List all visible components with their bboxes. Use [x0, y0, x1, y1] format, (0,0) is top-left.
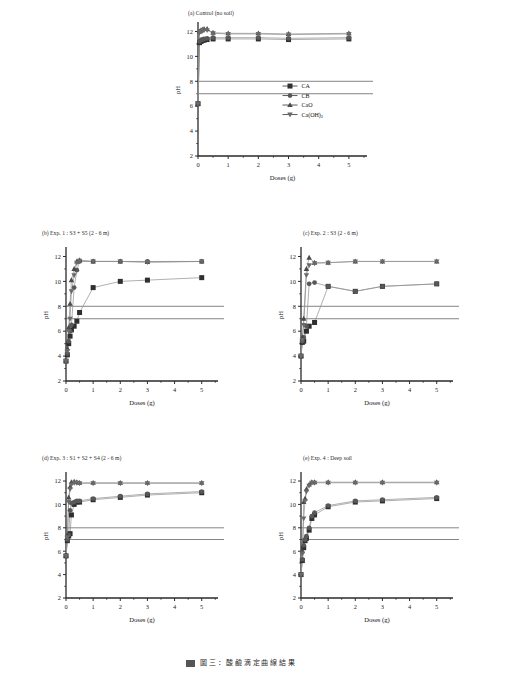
x-tick-label: 5: [200, 386, 203, 393]
x-tick-label: 0: [299, 386, 302, 393]
data-point-CA: [312, 320, 317, 325]
data-point-CA: [304, 329, 309, 334]
x-tick-label: 3: [287, 161, 290, 168]
data-point-Ca(OH)2: [304, 490, 310, 495]
x-axis-title: Doses (g): [270, 174, 295, 182]
y-tick-label: 2: [58, 594, 61, 601]
series-line-CA: [301, 499, 437, 575]
series-line-Ca(OH)2: [198, 30, 349, 103]
x-tick-label: 3: [381, 603, 384, 610]
y-tick-label: 6: [58, 548, 61, 555]
x-axis-title: Doses (g): [364, 616, 389, 624]
x-tick-label: 2: [119, 386, 122, 393]
y-tick-label: 12: [290, 477, 296, 484]
y-tick-label: 4: [293, 571, 297, 578]
x-tick-label: 2: [354, 386, 357, 393]
series-line-Ca(OH)2: [301, 261, 437, 356]
y-tick-label: 12: [290, 253, 296, 260]
legend-subscript: 2: [321, 114, 324, 119]
x-tick-label: 1: [227, 161, 230, 168]
chart-panel-c: (c) Exp. 2 : S3 (2 - 6 m)24681012012345D…: [275, 243, 463, 411]
y-tick-label: 10: [55, 501, 61, 508]
data-point-Ca(OH)2: [380, 259, 386, 264]
y-tick-label: 4: [190, 127, 194, 134]
y-axis-title: pH: [174, 86, 181, 94]
series-line-Ca(OH)2: [301, 483, 437, 575]
series-line-CA: [66, 278, 202, 361]
y-tick-label: 8: [58, 303, 61, 310]
x-tick-label: 4: [408, 386, 412, 393]
data-point-CB: [434, 281, 439, 286]
data-point-CA: [74, 319, 79, 324]
y-tick-label: 8: [58, 524, 61, 531]
plot-area-panel-e: 24681012012345Doses (g)pH: [275, 468, 463, 628]
data-point-CB: [380, 284, 385, 289]
y-tick-label: 12: [55, 253, 61, 260]
y-tick-label: 10: [187, 53, 193, 60]
x-tick-label: 5: [347, 161, 350, 168]
x-tick-label: 4: [173, 603, 177, 610]
y-tick-label: 12: [55, 477, 61, 484]
data-point-CB: [353, 499, 358, 504]
x-axis-title: Doses (g): [364, 399, 389, 407]
data-point-CA: [145, 278, 150, 283]
data-point-CB: [304, 534, 309, 539]
plot-area-panel-d: 24681012012345Doses (g)pH: [40, 468, 228, 628]
y-axis-title: pH: [42, 532, 49, 540]
data-point-Ca(OH)2: [69, 289, 75, 294]
data-point-CB: [353, 289, 358, 294]
x-tick-label: 1: [92, 603, 95, 610]
series-line-CB: [301, 497, 437, 574]
x-tick-label: 1: [92, 386, 95, 393]
series-line-CaO: [66, 260, 202, 361]
data-point-CB: [434, 495, 439, 500]
data-point-CA: [199, 275, 204, 280]
y-tick-label: 2: [58, 377, 61, 384]
chart-title-panel-c: (c) Exp. 2 : S3 (2 - 6 m): [303, 230, 358, 236]
series-line-CaO: [198, 29, 349, 104]
data-point-CB: [300, 557, 305, 562]
data-point-CB: [312, 510, 317, 515]
data-point-CB: [205, 36, 210, 41]
y-axis-title: pH: [277, 311, 284, 319]
y-tick-label: 10: [290, 278, 296, 285]
data-point-CaO: [67, 301, 73, 306]
data-point-CB: [326, 284, 331, 289]
axis-lines: [301, 247, 453, 381]
data-point-CA: [69, 512, 74, 517]
legend-label-CA: CA: [302, 83, 311, 89]
data-point-CB: [326, 503, 331, 508]
y-tick-label: 12: [187, 28, 193, 35]
data-point-CB: [380, 497, 385, 502]
y-tick-label: 4: [58, 571, 62, 578]
x-tick-label: 5: [435, 386, 438, 393]
x-tick-label: 0: [64, 603, 67, 610]
figure-caption: 圖 三 ： 酸 鹼 滴 定 曲 線 結 果: [200, 657, 295, 667]
series-line-CB: [301, 283, 437, 356]
data-point-CaO: [66, 495, 72, 500]
data-point-CaO: [301, 316, 307, 321]
chart-panel-b: (b) Exp. 1 : S3 + S5 (2 - 6 m)2468101201…: [40, 243, 228, 411]
data-point-CaO: [306, 255, 312, 260]
chart-panel-a: (a) Control (no soil)24681012012345Doses…: [172, 18, 377, 186]
data-point-CB: [68, 508, 73, 513]
x-tick-label: 4: [408, 603, 412, 610]
x-tick-label: 3: [146, 386, 149, 393]
series-line-CB: [66, 261, 202, 361]
y-tick-label: 6: [293, 548, 296, 555]
y-tick-label: 10: [290, 501, 296, 508]
y-tick-label: 6: [190, 102, 193, 109]
x-tick-label: 1: [327, 603, 330, 610]
plot-area-panel-b: 24681012012345Doses (g)pH: [40, 243, 228, 411]
data-point-CB: [301, 543, 306, 548]
data-point-Ca(OH)2: [304, 273, 310, 278]
x-tick-label: 3: [381, 386, 384, 393]
data-point-CB: [307, 525, 312, 530]
data-point-CB: [66, 339, 71, 344]
axis-lines: [198, 22, 367, 156]
x-tick-label: 4: [317, 161, 321, 168]
plot-area-panel-a: 24681012012345Doses (g)pHCACBCaOCa(OH)2: [172, 18, 377, 186]
axis-lines: [301, 472, 453, 598]
y-tick-label: 4: [293, 352, 297, 359]
chart-title-panel-a: (a) Control (no soil): [188, 10, 234, 16]
